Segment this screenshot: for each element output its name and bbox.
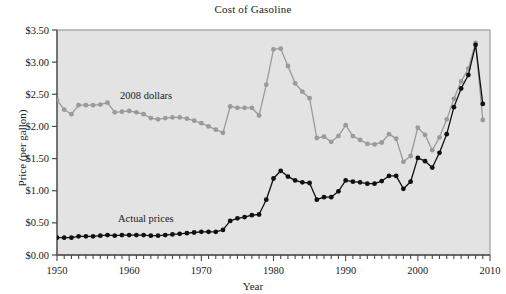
data-point-marker — [235, 105, 240, 110]
annotation-actual-prices: Actual prices — [118, 213, 174, 224]
data-point-marker — [379, 140, 384, 145]
data-point-marker — [228, 104, 233, 109]
data-point-marker — [329, 195, 334, 200]
data-point-marker — [156, 233, 161, 238]
data-point-marker — [105, 100, 110, 105]
annotation-2008-dollars: 2008 dollars — [120, 90, 172, 101]
data-point-marker — [394, 174, 399, 179]
x-tick-label: 1980 — [263, 265, 284, 276]
data-point-marker — [199, 229, 204, 234]
x-axis-label: Year — [0, 280, 506, 292]
data-point-marker — [55, 98, 60, 103]
data-point-marker — [343, 123, 348, 128]
data-point-marker — [430, 148, 435, 153]
data-point-marker — [105, 233, 110, 238]
data-point-marker — [206, 229, 211, 234]
data-point-marker — [120, 233, 125, 238]
data-point-marker — [415, 156, 420, 161]
data-point-marker — [249, 105, 254, 110]
data-point-marker — [307, 181, 312, 186]
data-point-marker — [473, 42, 478, 47]
data-point-marker — [170, 232, 175, 237]
y-tick-label: $1.50 — [25, 153, 49, 164]
data-point-marker — [206, 124, 211, 129]
y-axis-ticks: $0.00$0.50$1.00$1.50$2.00$2.50$3.00$3.50 — [25, 25, 57, 261]
data-point-marker — [293, 178, 298, 183]
data-point-marker — [141, 233, 146, 238]
data-point-marker — [76, 103, 81, 108]
data-point-marker — [350, 179, 355, 184]
data-point-marker — [257, 212, 262, 217]
data-point-marker — [62, 107, 67, 112]
x-tick-label: 1950 — [47, 265, 68, 276]
x-tick-label: 2010 — [480, 265, 501, 276]
y-tick-label: $2.00 — [25, 121, 49, 132]
data-point-marker — [177, 231, 182, 236]
y-tick-label: $3.00 — [25, 57, 49, 68]
x-tick-label: 1970 — [191, 265, 212, 276]
data-point-marker — [83, 103, 88, 108]
data-point-marker — [286, 174, 291, 179]
data-point-marker — [62, 235, 67, 240]
x-tick-label: 2000 — [407, 265, 428, 276]
data-point-marker — [444, 132, 449, 137]
data-point-marker — [379, 179, 384, 184]
data-point-marker — [430, 165, 435, 170]
data-point-marker — [372, 181, 377, 186]
data-point-marker — [112, 233, 117, 238]
data-point-marker — [98, 102, 103, 107]
data-point-marker — [278, 46, 283, 51]
data-point-marker — [185, 231, 190, 236]
data-point-marker — [249, 213, 254, 218]
data-point-marker — [322, 134, 327, 139]
data-point-marker — [307, 96, 312, 101]
y-tick-label: $2.50 — [25, 89, 49, 100]
data-point-marker — [358, 180, 363, 185]
data-point-marker — [444, 117, 449, 122]
data-point-marker — [480, 102, 485, 107]
data-point-marker — [192, 118, 197, 123]
y-tick-label: $0.00 — [25, 250, 49, 261]
data-point-marker — [401, 159, 406, 164]
data-point-marker — [286, 64, 291, 69]
data-point-marker — [278, 168, 283, 173]
data-point-marker — [69, 112, 74, 117]
data-point-marker — [242, 215, 247, 220]
data-point-marker — [365, 181, 370, 186]
data-point-marker — [358, 138, 363, 143]
data-point-marker — [170, 115, 175, 120]
data-point-marker — [423, 159, 428, 164]
data-point-marker — [480, 118, 485, 123]
data-point-marker — [322, 195, 327, 200]
data-point-marker — [271, 47, 276, 52]
data-point-marker — [466, 73, 471, 78]
data-point-marker — [148, 116, 153, 121]
data-point-marker — [329, 139, 334, 144]
data-point-marker — [156, 117, 161, 122]
data-point-marker — [336, 134, 341, 139]
data-point-marker — [69, 235, 74, 240]
data-point-marker — [314, 197, 319, 202]
data-point-marker — [134, 110, 139, 115]
data-point-marker — [192, 230, 197, 235]
data-point-marker — [394, 136, 399, 141]
plot-canvas: $0.00$0.50$1.00$1.50$2.00$2.50$3.00$3.50… — [0, 0, 506, 294]
data-point-marker — [408, 154, 413, 159]
x-tick-label: 1990 — [335, 265, 356, 276]
data-point-marker — [199, 121, 204, 126]
data-point-marker — [408, 179, 413, 184]
data-point-marker — [91, 103, 96, 108]
data-point-marker — [365, 141, 370, 146]
data-point-marker — [350, 134, 355, 139]
data-point-marker — [213, 127, 218, 132]
data-point-marker — [163, 233, 168, 238]
chart-root: Cost of Gasoline Price (per gallon) $0.0… — [0, 0, 506, 294]
data-point-marker — [401, 186, 406, 191]
data-point-marker — [177, 115, 182, 120]
data-point-marker — [452, 105, 457, 110]
data-point-marker — [91, 234, 96, 239]
data-point-marker — [221, 130, 226, 135]
data-point-marker — [127, 109, 132, 114]
data-point-marker — [83, 234, 88, 239]
data-point-marker — [387, 132, 392, 137]
